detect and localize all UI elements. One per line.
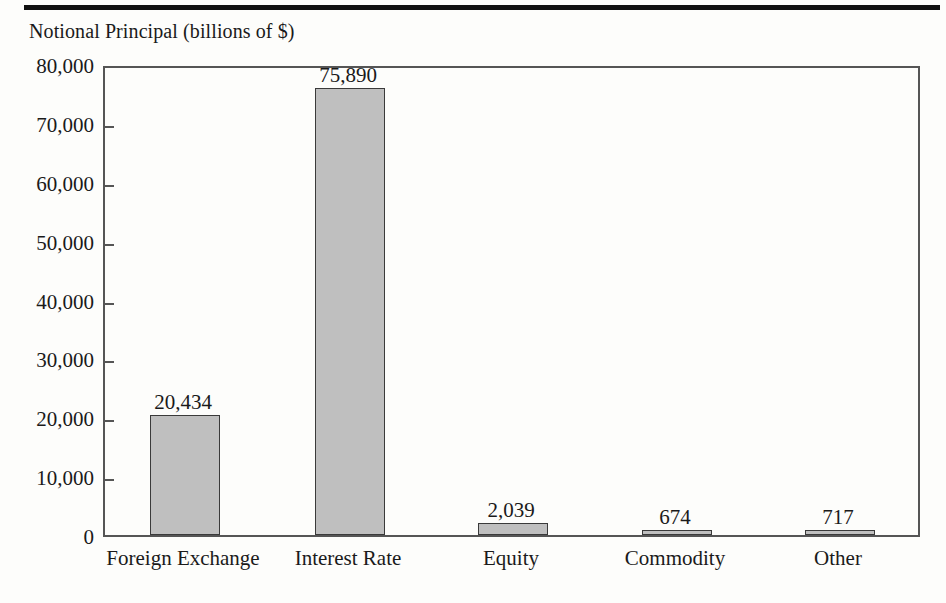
y-axis-tick-label: 20,000 bbox=[36, 407, 94, 432]
bar bbox=[315, 88, 385, 535]
y-axis: 010,00020,00030,00040,00050,00060,00070,… bbox=[0, 66, 94, 537]
y-axis-tick-label: 30,000 bbox=[36, 348, 94, 373]
bar-value-label: 674 bbox=[659, 505, 691, 530]
y-axis-tick-label: 10,000 bbox=[36, 466, 94, 491]
y-axis-tick-label: 80,000 bbox=[36, 54, 94, 79]
y-axis-tick-label: 50,000 bbox=[36, 230, 94, 255]
y-axis-tick-label: 60,000 bbox=[36, 171, 94, 196]
x-axis-category-label: Other bbox=[814, 546, 862, 571]
y-axis-tick-mark bbox=[105, 479, 114, 481]
bar bbox=[805, 530, 875, 535]
x-axis-category-label: Commodity bbox=[625, 546, 725, 571]
y-axis-tick-mark bbox=[105, 244, 114, 246]
bar bbox=[642, 530, 712, 535]
chart-title: Notional Principal (billions of $) bbox=[29, 20, 295, 43]
y-axis-tick-label: 40,000 bbox=[36, 289, 94, 314]
y-axis-tick-label: 0 bbox=[84, 525, 95, 550]
plot-area bbox=[103, 66, 920, 537]
y-axis-tick-mark bbox=[105, 361, 114, 363]
bar bbox=[150, 415, 220, 535]
header-rule bbox=[24, 5, 940, 10]
x-axis-category-label: Foreign Exchange bbox=[106, 546, 259, 571]
y-axis-tick-mark bbox=[105, 185, 114, 187]
x-axis-category-label: Equity bbox=[483, 546, 539, 571]
bar-value-label: 2,039 bbox=[487, 498, 534, 523]
bar bbox=[478, 523, 548, 535]
x-axis-category-label: Interest Rate bbox=[295, 546, 402, 571]
y-axis-tick-mark bbox=[105, 303, 114, 305]
bar-value-label: 717 bbox=[822, 505, 854, 530]
y-axis-tick-mark bbox=[105, 420, 114, 422]
chart-page: Notional Principal (billions of $) 010,0… bbox=[0, 0, 946, 603]
bar-value-label: 20,434 bbox=[154, 390, 212, 415]
y-axis-tick-label: 70,000 bbox=[36, 112, 94, 137]
y-axis-tick-mark bbox=[105, 126, 114, 128]
bar-value-label: 75,890 bbox=[319, 63, 377, 88]
